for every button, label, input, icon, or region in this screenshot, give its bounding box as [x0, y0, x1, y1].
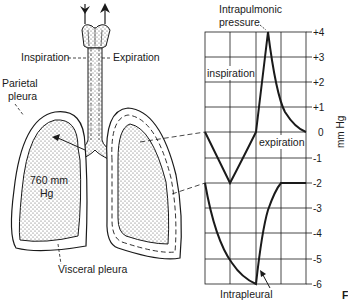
- pressure-label-1: 760 mm: [30, 174, 68, 186]
- parietal-pleura-label-2: pleura: [8, 90, 37, 102]
- inhale-arrow-icon: [80, 4, 90, 24]
- tick-0: 0: [318, 127, 324, 138]
- tick-minus-3: -3: [313, 203, 322, 214]
- intrapleural-label: Intrapleural: [220, 288, 273, 300]
- parietal-pleura-label-1: Parietal: [2, 77, 38, 89]
- tick-plus-3: +3: [313, 52, 325, 63]
- expiration-graph-label: expiration: [259, 136, 305, 148]
- tick-minus-5: -5: [313, 254, 322, 265]
- right-lung: [107, 108, 182, 259]
- airway-arrows: [80, 3, 110, 24]
- tick-minus-1: -1: [313, 153, 322, 164]
- tick-plus-2: +2: [313, 77, 325, 88]
- tick-minus-2: -2: [313, 178, 322, 189]
- y-axis-label: mm Hg: [335, 116, 346, 148]
- inspiration-airway-label: Inspiration: [21, 51, 70, 63]
- tick-plus-1: +1: [313, 102, 325, 113]
- intrapleural-arrow-icon: [260, 270, 270, 288]
- exhale-arrow-icon: [100, 3, 110, 24]
- tick-minus-4: -4: [313, 228, 322, 239]
- intrapleural-curve: [205, 183, 306, 284]
- pressure-chart: inspiration expiration Intrapulmonic pre…: [205, 3, 346, 300]
- intrapulmonic-label-2: pressure: [219, 16, 260, 28]
- inspiration-graph-label: inspiration: [207, 67, 255, 79]
- larynx: [82, 25, 110, 48]
- intrapulmonic-curve: [205, 32, 306, 183]
- intrapulmonic-label-1: Intrapulmonic: [219, 3, 282, 15]
- tick-plus-4: +4: [313, 27, 325, 38]
- visceral-pleura-label: Visceral pleura: [58, 263, 127, 275]
- pressure-label-2: Hg: [40, 187, 54, 199]
- y-axis-ticks: +4 +3 +2 +1 0 -1 -2 -3 -4 -5 -6: [313, 27, 325, 290]
- figure-corner-fragment: F: [342, 289, 348, 301]
- tick-minus-6: -6: [313, 279, 322, 290]
- expiration-airway-label: Expiration: [113, 51, 160, 63]
- respiration-pressure-diagram: Inspiration Expiration Parietal pleura 7…: [0, 0, 348, 302]
